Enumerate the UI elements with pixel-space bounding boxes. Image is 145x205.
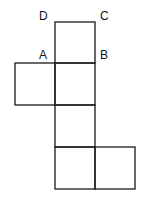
bottom-right-face: [95, 147, 135, 189]
cube-net-diagram: [0, 0, 145, 205]
bottom-left-face: [55, 147, 95, 189]
left-face: [15, 63, 55, 105]
middle-lower-face: [55, 105, 95, 147]
vertex-label-a: A: [39, 49, 47, 61]
vertex-label-c: C: [100, 10, 109, 22]
vertex-label-b: B: [100, 49, 108, 61]
top-face: [55, 22, 95, 63]
center-face: [55, 63, 95, 105]
vertex-label-d: D: [39, 10, 48, 22]
